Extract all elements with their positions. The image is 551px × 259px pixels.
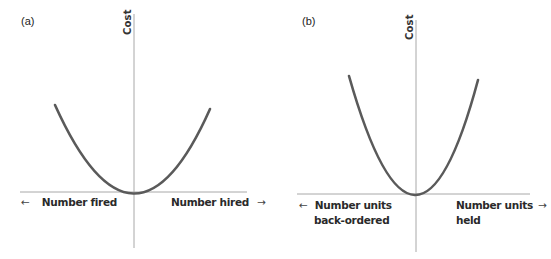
y-axis-label-b: Cost [404,14,415,40]
right-arrow-icon: → [257,196,266,208]
x-axis-label-left-a: ← Number fired [21,195,117,210]
panel-label-b: (b) [302,15,315,27]
plot-area-a [0,0,275,259]
x-axis-label-right-a: Number hired → [171,195,266,210]
cost-curve-a [55,105,210,194]
right-arrow-icon: → [538,199,547,211]
left-arrow-icon: ← [299,199,308,211]
y-axis-label-a: Cost [122,9,133,35]
chart-panel-a: (a) Cost ← Number fired Number hired → [0,0,275,259]
left-arrow-icon: ← [21,196,30,208]
x-axis-label-left-b: ← Number units back-ordered [299,198,392,228]
chart-panel-b: (b) Cost ← Number units back-ordered Num… [275,0,551,259]
x-axis-label-right-b: Number units → held [456,198,547,228]
panel-label-a: (a) [21,15,34,27]
cost-curve-b [349,76,478,195]
